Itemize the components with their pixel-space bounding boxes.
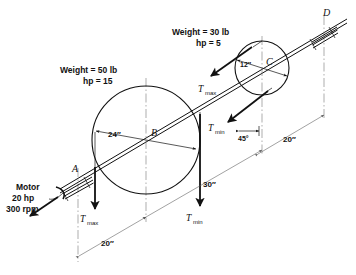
figure-canvas: A D B 24″ T max T min Weight = <box>0 0 356 275</box>
shaft-assembly-diagram: A D B 24″ T max T min Weight = <box>0 0 356 275</box>
pulley-b-spec: Weight = 50 lb hp = 15 <box>60 65 117 86</box>
motor-hp-label: 20 hp <box>12 193 34 203</box>
pulley-c-tmin-label: T min <box>208 123 225 135</box>
svg-text:max: max <box>87 220 98 226</box>
belt-angle-45-label: 45° <box>238 135 249 142</box>
svg-text:max: max <box>205 90 216 96</box>
pulley-b-weight-label: Weight = 50 lb <box>60 65 117 75</box>
svg-text:T: T <box>80 214 86 224</box>
svg-text:T: T <box>198 84 204 94</box>
svg-text:min: min <box>193 219 203 225</box>
point-c-label: C <box>266 56 273 67</box>
point-a-label: A <box>71 163 79 174</box>
pulley-c-weight-label: Weight = 30 lb <box>172 27 229 37</box>
motor-rpm-label: 300 rpm <box>6 204 39 214</box>
pulley-b-tmin-label: T min <box>186 213 203 225</box>
point-b-label: B <box>151 127 157 138</box>
pulley-c-tmax-label: T max <box>198 84 216 96</box>
svg-text:min: min <box>215 129 225 135</box>
svg-text:T: T <box>186 213 192 223</box>
pulley-c-hp-label: hp = 5 <box>196 38 221 48</box>
pulley-b-hp-label: hp = 15 <box>83 76 113 86</box>
svg-text:T: T <box>208 123 214 133</box>
dim-b-to-c-label: 30″ <box>203 180 216 189</box>
dim-c-to-d-label: 20″ <box>283 135 296 144</box>
motor-spec: Motor 20 hp 300 rpm <box>6 182 40 214</box>
pulley-b-tmax-label: T max <box>80 214 98 226</box>
dim-a-to-b-label: 20″ <box>101 239 114 248</box>
pulley-c-diameter-label: 12″ <box>240 61 252 68</box>
pulley-c-spec: Weight = 30 lb hp = 5 <box>172 27 229 48</box>
motor-label: Motor <box>16 182 40 192</box>
point-d-label: D <box>322 7 331 18</box>
pulley-b-diameter-label: 24″ <box>108 130 121 139</box>
